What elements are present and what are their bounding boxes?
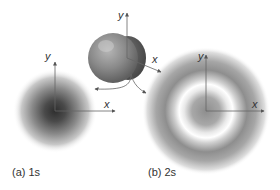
x-axis-label: x xyxy=(103,98,110,110)
x-axis-label: x xyxy=(151,53,158,65)
caption-1s: (a) 1s xyxy=(12,166,40,178)
orbital-figure: y x y x y x xyxy=(0,0,280,190)
x-axis-label: x xyxy=(251,98,258,110)
orbital-2s: y x xyxy=(142,47,270,175)
caption-2s: (b) 2s xyxy=(148,166,176,178)
y-axis-label: y xyxy=(117,9,125,21)
y-axis-label: y xyxy=(44,50,52,62)
